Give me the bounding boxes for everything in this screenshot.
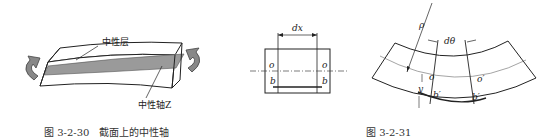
dtheta-label: dθ	[444, 36, 456, 46]
beam-edge	[172, 80, 180, 88]
beam-right-edge	[180, 43, 182, 80]
left-moment-arrow-icon	[26, 56, 40, 80]
segment-dx-figure: dx o o b b	[250, 23, 348, 93]
b-right-label: b	[322, 76, 328, 86]
caption-fig-3-2-30: 图 3-2-30 截面上的中性轴	[44, 124, 169, 139]
o-right-label: o	[322, 60, 328, 70]
caption-number: 图 3-2-31	[366, 127, 411, 138]
neutral-layer-label: 中性层	[102, 36, 129, 47]
right-end	[508, 41, 536, 78]
neutral-layer-arc	[380, 56, 526, 77]
caption-number: 图 3-2-30	[44, 127, 89, 138]
left-end	[372, 43, 395, 78]
right-moment-arrow-icon	[186, 48, 200, 72]
dtheta-arrow-right	[467, 40, 476, 42]
o-label: o	[429, 72, 435, 82]
o-left-label: o	[269, 60, 275, 70]
inner-arc	[372, 78, 536, 98]
o-prime-label: o′	[477, 74, 484, 84]
b-left-label: b	[270, 76, 276, 86]
neutral-axis-label: 中性轴Z	[138, 99, 171, 110]
figure-canvas: 中性层 中性轴Z dx o o b b ρ dθ o o′ b′ b′	[0, 0, 552, 139]
caption-title: 截面上的中性轴	[99, 127, 169, 138]
bent-beam-figure: 中性层 中性轴Z	[26, 36, 200, 110]
b-prime-right-label: b′	[472, 92, 480, 102]
caption-fig-3-2-31: 图 3-2-31	[366, 124, 411, 139]
y-label: y	[417, 84, 424, 94]
radius-line	[407, 3, 432, 72]
rho-label: ρ	[418, 20, 425, 30]
b-prime-left-label: b′	[433, 90, 441, 100]
dtheta-arrow-left	[428, 40, 437, 42]
curved-segment-figure: ρ dθ o o′ b′ b′ y	[372, 3, 536, 108]
dx-label: dx	[292, 23, 303, 33]
